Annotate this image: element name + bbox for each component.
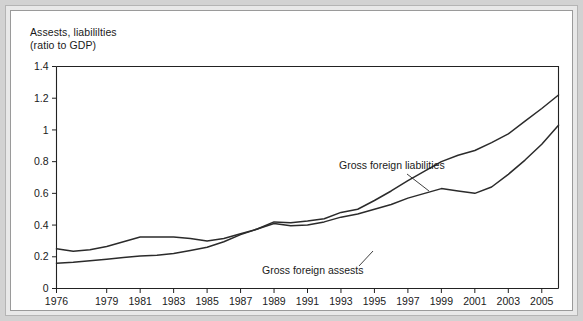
x-tick-label: 1991: [296, 295, 320, 307]
x-tick-label: 1987: [229, 295, 253, 307]
chart-annotations: Gross foreign liabilitiesGross foreign a…: [262, 159, 445, 276]
chart-axes: [57, 67, 559, 289]
y-tick-label: 0.2: [34, 250, 49, 262]
x-tick-label: 2003: [497, 295, 521, 307]
x-tick-label: 1976: [45, 295, 69, 307]
line-chart: 00.20.40.60.811.21.4 1976197919811983198…: [11, 11, 572, 310]
chart-panel: Assests, liabililties(ratio to GDP) 00.2…: [11, 11, 572, 310]
series-line-gross-foreign-liabilities: [57, 95, 559, 251]
chart-series: [57, 95, 559, 263]
x-tick-label: 1997: [396, 295, 420, 307]
x-tick-label: 2005: [530, 295, 554, 307]
liabilities-annotation-text: Gross foreign liabilities: [339, 159, 445, 171]
x-tick-label: 1983: [162, 295, 186, 307]
assets-annotation-leader: [359, 251, 373, 266]
liabilities-annotation-leader: [407, 174, 429, 191]
axis-frame-top-right: [57, 67, 559, 289]
y-tick-label: 0.8: [34, 155, 49, 167]
x-tick-label: 1981: [128, 295, 152, 307]
y-tick-label: 1.2: [34, 92, 49, 104]
x-tick-label: 2001: [463, 295, 487, 307]
x-axis-ticks: 1976197919811983198519871989199119931995…: [45, 289, 554, 307]
x-tick-label: 1999: [430, 295, 454, 307]
y-tick-label: 0.6: [34, 187, 49, 199]
y-tick-label: 0.4: [34, 219, 49, 231]
x-tick-label: 1995: [363, 295, 387, 307]
y-tick-label: 0: [43, 282, 49, 294]
y-tick-label: 1: [43, 124, 49, 136]
assets-annotation-text: Gross foreign assests: [262, 264, 364, 276]
x-tick-label: 1989: [262, 295, 286, 307]
axis-lines: [57, 67, 559, 289]
x-tick-label: 1993: [329, 295, 353, 307]
x-tick-label: 1985: [195, 295, 219, 307]
y-axis-ticks: 00.20.40.60.811.21.4: [34, 60, 57, 294]
x-tick-label: 1979: [95, 295, 119, 307]
figure-root: Assests, liabililties(ratio to GDP) 00.2…: [0, 0, 583, 321]
y-tick-label: 1.4: [34, 60, 49, 72]
